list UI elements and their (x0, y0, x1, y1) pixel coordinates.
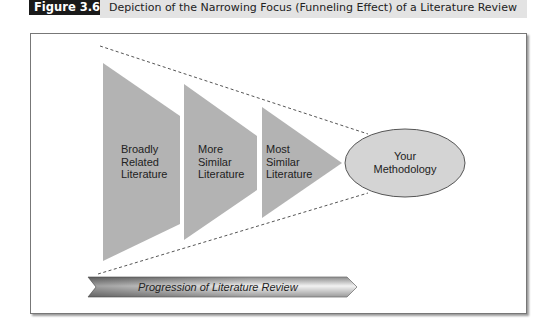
stage-label-line: Related (121, 156, 159, 168)
svg-text:Literature: Literature (266, 168, 312, 180)
svg-text:Literature: Literature (198, 168, 244, 180)
stage-most-similar: Most Similar Literature (262, 107, 342, 218)
endpoint-your-methodology: Your Methodology (345, 129, 465, 197)
svg-text:Related: Related (121, 156, 159, 168)
endpoint-label-line: Your (394, 150, 417, 162)
stage-label-line: Broadly (121, 143, 159, 155)
svg-text:Progression of Literature Revi: Progression of Literature Review (138, 281, 299, 293)
svg-text:Most: Most (266, 143, 290, 155)
stage-label-line: Literature (198, 168, 244, 180)
progression-arrow: Progression of Literature Review (88, 277, 357, 297)
stage-more-similar: More Similar Literature (184, 84, 257, 240)
stage-label-line: Literature (266, 168, 312, 180)
stage-label-line: Most (266, 143, 290, 155)
svg-text:More: More (198, 143, 223, 155)
endpoint-label-line: Methodology (374, 163, 437, 175)
svg-text:Broadly: Broadly (121, 143, 159, 155)
svg-text:Similar: Similar (266, 156, 300, 168)
stage-label-line: Literature (121, 168, 167, 180)
funnel-diagram: Broadly Related Literature More Similar … (0, 0, 560, 325)
stage-label-line: Similar (266, 156, 300, 168)
stage-broadly-related: Broadly Related Literature (103, 63, 180, 261)
svg-text:Similar: Similar (198, 156, 232, 168)
svg-text:Literature: Literature (121, 168, 167, 180)
svg-text:Methodology: Methodology (374, 163, 437, 175)
stage-label-line: More (198, 143, 223, 155)
progression-arrow-label: Progression of Literature Review (138, 281, 299, 293)
svg-text:Your: Your (394, 150, 417, 162)
stage-label-line: Similar (198, 156, 232, 168)
